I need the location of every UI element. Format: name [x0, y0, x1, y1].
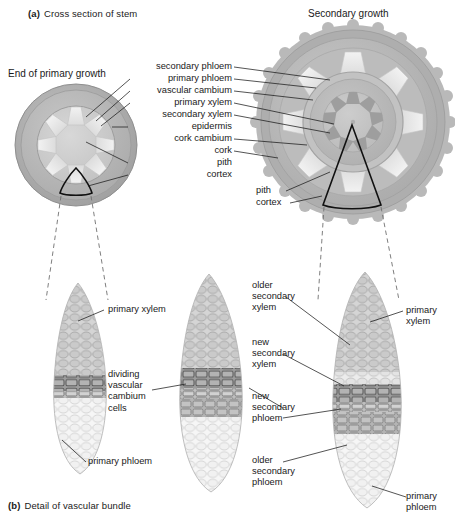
label-b3-primary-xylem: primary xylem — [406, 305, 437, 327]
panel-b-caption-text: Detail of vascular bundle — [20, 500, 131, 511]
label-epidermis: epidermis — [92, 121, 232, 132]
older-sec-xylem-line-1: older — [252, 280, 295, 291]
panel-b-caption: (b)Detail of vascular bundle — [8, 500, 131, 511]
label-cortex: cortex — [92, 169, 232, 180]
label-primary-phloem: primary phloem — [92, 73, 232, 84]
new-sec-xylem-line-3: xylem — [252, 359, 295, 370]
label-new-secondary-xylem: new secondary xylem — [252, 337, 295, 371]
dividing-line-4: cells — [108, 403, 146, 414]
b3-primary-phloem-line-1: primary — [406, 491, 437, 502]
figure-stem-secondary-growth: (a)Cross section of stem End of primary … — [0, 0, 455, 529]
older-sec-xylem-line-2: secondary — [252, 291, 295, 302]
label-vascular-cambium: vascular cambium — [92, 85, 232, 96]
label-cork: cork — [92, 145, 232, 156]
b3-primary-phloem-line-2: phloem — [406, 502, 437, 513]
new-sec-xylem-line-2: secondary — [252, 348, 295, 359]
label-b-primary-xylem: primary xylem — [108, 304, 166, 315]
vascular-bundle-1 — [45, 275, 115, 480]
label-secondary-phloem: secondary phloem — [92, 61, 232, 72]
dividing-line-3: cambium — [108, 391, 146, 402]
label-pith: pith — [92, 157, 232, 168]
label-primary-xylem: primary xylem — [92, 97, 232, 108]
new-sec-phloem-line-1: new — [252, 391, 295, 402]
vascular-bundle-3 — [326, 264, 408, 516]
label-new-secondary-phloem: new secondary phloem — [252, 391, 295, 425]
label-pith-right: pith — [256, 185, 271, 196]
dividing-line-2: vascular — [108, 380, 146, 391]
label-secondary-xylem: secondary xylem — [92, 109, 232, 120]
new-sec-phloem-line-2: secondary — [252, 402, 295, 413]
label-older-secondary-xylem: older secondary xylem — [252, 280, 295, 314]
vascular-bundle-2 — [172, 266, 250, 499]
label-older-secondary-phloem: older secondary phloem — [252, 455, 295, 489]
new-sec-phloem-line-3: phloem — [252, 413, 295, 424]
label-dividing-vascular-cambium-cells: dividing vascular cambium cells — [108, 369, 146, 414]
older-sec-phloem-line-3: phloem — [252, 477, 295, 488]
dividing-line-1: dividing — [108, 369, 146, 380]
b3-primary-xylem-line-1: primary — [406, 305, 437, 316]
stem-cross-section-secondary — [250, 19, 455, 225]
panel-b-tag: (b) — [8, 500, 20, 511]
older-sec-xylem-line-3: xylem — [252, 302, 295, 313]
older-sec-phloem-line-2: secondary — [252, 466, 295, 477]
label-b-primary-phloem: primary phloem — [88, 456, 152, 467]
label-b3-primary-phloem: primary phloem — [406, 491, 437, 513]
new-sec-xylem-line-1: new — [252, 337, 295, 348]
older-sec-phloem-line-1: older — [252, 455, 295, 466]
b3-primary-xylem-line-2: xylem — [406, 316, 437, 327]
label-cortex-right: cortex — [256, 197, 281, 208]
label-cork-cambium: cork cambium — [92, 133, 232, 144]
